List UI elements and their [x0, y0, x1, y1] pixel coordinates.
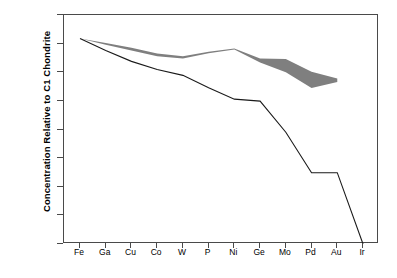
x-tick-mark [208, 243, 209, 248]
chart-canvas [64, 15, 379, 244]
x-tick-mark [182, 243, 183, 248]
x-tick-mark [336, 243, 337, 248]
x-tick-mark [79, 243, 80, 248]
plot-area [63, 14, 378, 243]
x-tick-mark [362, 243, 363, 248]
x-tick-mark [105, 243, 106, 248]
x-tick-mark [259, 243, 260, 248]
model-curve-line [80, 39, 363, 244]
measured-range-band [80, 39, 337, 89]
y-axis-title: Concentration Relative to C1 Chondrite [41, 22, 52, 222]
y-tick-mark [57, 243, 63, 244]
x-tick-mark [156, 243, 157, 248]
x-tick-mark [285, 243, 286, 248]
x-tick-mark [130, 243, 131, 248]
chart-figure: Concentration Relative to C1 Chondrite 1… [0, 0, 397, 278]
x-tick-mark [311, 243, 312, 248]
x-tick-mark [233, 243, 234, 248]
x-tick-label: Ir [347, 247, 377, 257]
